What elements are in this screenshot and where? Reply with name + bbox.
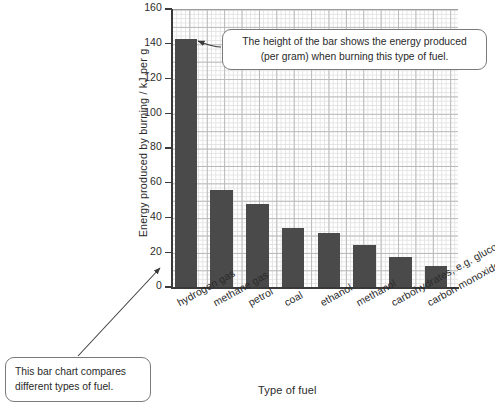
x-axis-title: Type of fuel [258,384,317,396]
y-axis-tick: 140 [165,43,172,44]
y-axis-tick-label: 20 [150,245,162,257]
bar [175,39,198,287]
y-axis-tick-label: 120 [144,71,162,83]
y-axis-tick: 60 [165,182,172,183]
bar-height-callout-line-1: The height of the bar shows the energy p… [231,35,478,50]
chart-purpose-callout: This bar chart compares different types … [5,357,151,402]
callout-arrow-to-chart [78,268,160,356]
y-axis-tick: 120 [165,78,172,79]
y-axis-tick-label: 60 [150,175,162,187]
y-axis-tick: 100 [165,113,172,114]
y-axis-tick-label: 40 [150,210,162,222]
y-axis-tick-label: 160 [144,1,162,13]
y-axis-tick-label: 80 [150,140,162,152]
bar-height-callout: The height of the bar shows the energy p… [222,29,487,70]
bar-height-callout-line-2: (per gram) when burning this type of fue… [231,50,478,65]
plot-top-border [172,9,458,10]
y-axis-tick: 40 [165,217,172,218]
y-axis-tick-label: 100 [144,106,162,118]
y-axis-tick: 160 [165,8,172,9]
y-axis-tick: 0 [165,286,172,287]
chart-purpose-callout-line-2: different types of fuel. [15,379,141,394]
bar [353,245,376,287]
bar [318,233,341,287]
x-axis-tick-label: coal [282,289,304,308]
bar-chart-figure: Energy produced by burning / kJ per g 02… [0,0,495,413]
y-axis-tick-label: 140 [144,36,162,48]
bar [282,228,305,287]
y-axis-title: Energy produced by burning / kJ per g [137,8,149,278]
chart-purpose-callout-line-1: This bar chart compares [15,364,141,379]
y-axis-tick: 20 [165,252,172,253]
y-axis-tick: 80 [165,147,172,148]
y-axis-tick-label: 0 [156,279,162,291]
